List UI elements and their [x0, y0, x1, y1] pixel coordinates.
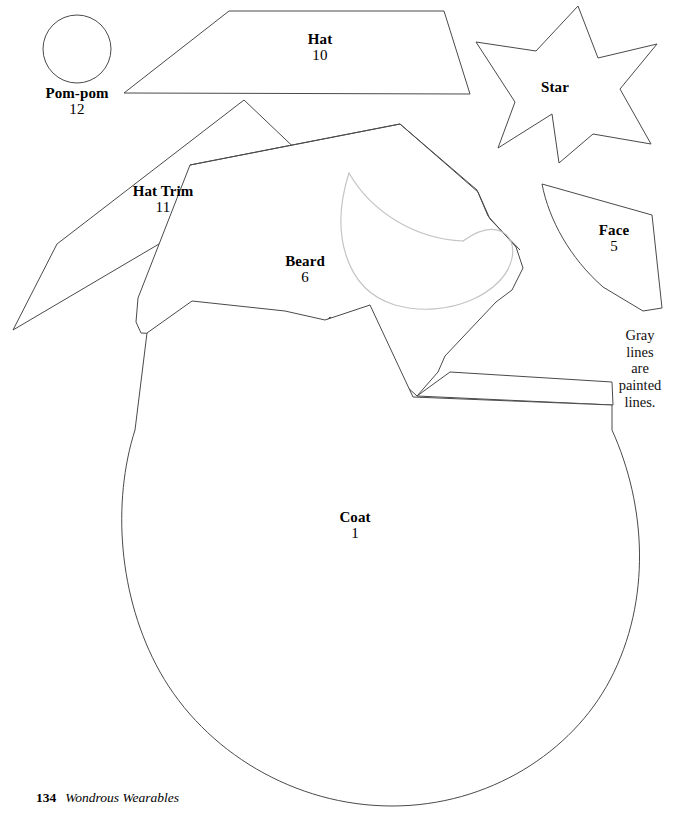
piece-label-pom-pom-name: Pom-pom: [45, 85, 108, 101]
piece-label-beard-number: 6: [285, 269, 325, 285]
piece-label-pom-pom: Pom-pom 12: [45, 85, 108, 117]
piece-label-hat: Hat 10: [308, 31, 332, 63]
piece-label-hat-trim-name: Hat Trim: [133, 183, 194, 199]
piece-label-coat-name: Coat: [339, 509, 370, 525]
piece-label-star-name: Star: [541, 79, 569, 95]
piece-label-face: Face 5: [599, 222, 629, 254]
pattern-sheet: Pom-pom 12 Hat 10 Star Hat Trim 11 Face …: [0, 0, 685, 817]
piece-shape-hat[interactable]: [124, 11, 470, 94]
piece-label-face-number: 5: [599, 238, 629, 254]
painted-lines-note: Gray lines are painted lines.: [618, 327, 663, 410]
piece-shape-pom-pom[interactable]: [43, 15, 111, 83]
painted-lines-note-line-3: lines.: [618, 394, 663, 411]
piece-label-beard-name: Beard: [285, 253, 325, 269]
piece-shape-coat[interactable]: [122, 301, 640, 806]
piece-label-coat-number: 1: [339, 525, 370, 541]
piece-label-hat-name: Hat: [308, 31, 332, 47]
piece-label-beard: Beard 6: [285, 253, 325, 285]
page-number: 134: [36, 790, 56, 805]
piece-label-coat: Coat 1: [339, 509, 370, 541]
piece-label-hat-number: 10: [308, 47, 332, 63]
pattern-pieces-drawing: [0, 0, 685, 817]
piece-label-star: Star: [541, 79, 569, 95]
piece-label-hat-trim: Hat Trim 11: [133, 183, 194, 215]
painted-lines-note-line-2: are painted: [618, 360, 663, 393]
piece-label-hat-trim-number: 11: [133, 199, 194, 215]
piece-label-face-name: Face: [599, 222, 629, 238]
piece-label-pom-pom-number: 12: [45, 101, 108, 117]
page-footer: 134Wondrous Wearables: [36, 790, 179, 806]
book-title: Wondrous Wearables: [65, 790, 179, 805]
painted-lines-note-line-1: Gray lines: [618, 327, 663, 360]
